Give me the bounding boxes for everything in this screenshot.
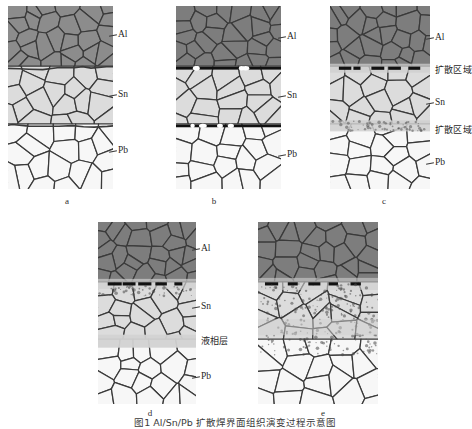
label-leader-line bbox=[192, 306, 200, 309]
diffusion-speckle bbox=[363, 124, 364, 125]
diffusion-speckle bbox=[305, 337, 308, 340]
diffusion-speckle bbox=[354, 314, 357, 317]
layer-label-d-1: Sn bbox=[201, 302, 211, 312]
residual-void-dash bbox=[388, 67, 401, 70]
layer-label-a-1: Sn bbox=[118, 90, 128, 100]
diffusion-speckle bbox=[347, 283, 349, 285]
diffusion-speckle bbox=[299, 338, 302, 341]
diffusion-speckle bbox=[138, 288, 140, 290]
diffusion-speckle bbox=[190, 288, 192, 290]
diffusion-speckle bbox=[295, 287, 297, 289]
label-leader-line bbox=[426, 162, 434, 165]
diffusion-speckle bbox=[355, 339, 356, 340]
diffusion-speckle bbox=[347, 122, 350, 125]
diffusion-band bbox=[258, 319, 378, 335]
diffusion-speckle bbox=[268, 339, 270, 341]
diffusion-speckle bbox=[287, 348, 290, 351]
panel-letter-a: a bbox=[57, 196, 77, 206]
diffusion-speckle bbox=[314, 335, 318, 339]
diffusion-speckle bbox=[274, 307, 277, 310]
diffusion-speckle bbox=[305, 307, 307, 309]
diffusion-speckle bbox=[409, 125, 412, 128]
diffusion-speckle bbox=[163, 294, 166, 297]
diffusion-speckle bbox=[418, 123, 419, 124]
interface-void bbox=[217, 124, 223, 128]
diffusion-speckle bbox=[354, 283, 357, 286]
diffusion-speckle bbox=[352, 130, 354, 132]
diffusion-speckle bbox=[128, 287, 129, 288]
diffusion-speckle bbox=[328, 308, 331, 311]
diffusion-speckle bbox=[112, 290, 114, 292]
diffusion-speckle bbox=[300, 306, 303, 309]
diffusion-speckle bbox=[302, 353, 304, 355]
diffusion-speckle bbox=[336, 290, 337, 291]
diffusion-speckle bbox=[367, 312, 370, 315]
residual-void-dash bbox=[155, 282, 167, 285]
diffusion-speckle bbox=[377, 121, 380, 124]
diffusion-speckle bbox=[269, 287, 270, 288]
diffusion-speckle bbox=[287, 290, 288, 291]
diffusion-speckle bbox=[300, 294, 301, 295]
diffusion-speckle bbox=[349, 129, 352, 132]
diffusion-speckle bbox=[337, 345, 339, 347]
panel-a-microstructure bbox=[8, 6, 113, 189]
diffusion-speckle bbox=[274, 354, 275, 355]
diffusion-speckle bbox=[400, 128, 402, 130]
diffusion-speckle bbox=[152, 290, 155, 293]
diffusion-speckle bbox=[131, 287, 133, 289]
diffusion-speckle bbox=[273, 343, 275, 345]
diffusion-speckle bbox=[369, 127, 371, 129]
panel-e-microstructure bbox=[258, 222, 378, 404]
diffusion-speckle bbox=[381, 128, 383, 130]
diffusion-speckle bbox=[417, 130, 418, 131]
diffusion-speckle bbox=[339, 297, 343, 301]
diffusion-speckle bbox=[176, 287, 178, 289]
residual-void-dash bbox=[108, 282, 122, 285]
diffusion-speckle bbox=[354, 306, 355, 307]
diffusion-speckle bbox=[279, 298, 280, 299]
panel-letter-c: c bbox=[374, 196, 394, 206]
layer-label-b-2: Pb bbox=[287, 150, 297, 160]
diffusion-speckle bbox=[132, 293, 135, 296]
diffusion-speckle bbox=[383, 128, 386, 131]
diffusion-speckle bbox=[358, 315, 360, 317]
diffusion-speckle bbox=[308, 342, 310, 344]
diffusion-speckle bbox=[110, 288, 112, 290]
diffusion-speckle bbox=[330, 309, 333, 312]
diffusion-speckle bbox=[281, 316, 282, 317]
diffusion-speckle bbox=[289, 339, 291, 341]
al-grain-layer bbox=[258, 222, 378, 287]
residual-void-dash bbox=[329, 282, 338, 285]
diffusion-speckle bbox=[415, 121, 417, 123]
diffusion-speckle bbox=[345, 295, 348, 298]
label-leader-line bbox=[109, 94, 117, 97]
diffusion-speckle bbox=[144, 285, 147, 288]
label-leader-line bbox=[192, 248, 200, 251]
diffusion-speckle bbox=[301, 299, 305, 303]
diffusion-speckle bbox=[369, 349, 372, 352]
diffusion-speckle bbox=[340, 284, 342, 286]
diffusion-speckle bbox=[359, 305, 361, 307]
diffusion-speckle bbox=[331, 306, 333, 308]
diffusion-speckle bbox=[314, 309, 316, 311]
layer-label-c-2: Sn bbox=[435, 98, 445, 108]
diffusion-speckle bbox=[338, 287, 340, 289]
diffusion-speckle bbox=[404, 126, 407, 129]
diffusion-speckle bbox=[363, 351, 365, 353]
diffusion-speckle bbox=[343, 314, 346, 317]
label-leader-line bbox=[109, 150, 117, 153]
diffusion-speckle bbox=[271, 284, 272, 285]
diffusion-speckle bbox=[373, 341, 377, 345]
diffusion-band bbox=[98, 335, 196, 348]
diffusion-speckle bbox=[326, 314, 328, 316]
interface-void bbox=[199, 124, 207, 128]
diffusion-speckle bbox=[308, 345, 310, 347]
sn-grain-layer bbox=[330, 66, 430, 128]
diffusion-speckle bbox=[177, 288, 179, 290]
diffusion-speckle bbox=[423, 128, 426, 131]
diffusion-speckle bbox=[149, 292, 151, 294]
diffusion-speckle bbox=[262, 303, 264, 305]
diffusion-speckle bbox=[295, 293, 297, 295]
pb-grain-layer bbox=[330, 124, 430, 189]
diffusion-speckle bbox=[386, 129, 388, 131]
